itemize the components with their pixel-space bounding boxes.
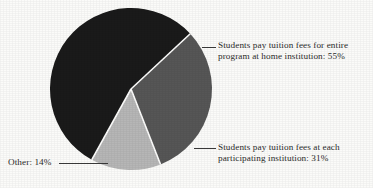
leader-line-other — [59, 163, 108, 164]
pie-label-each-institution: Students pay tuition fees at each partic… — [218, 142, 340, 165]
leader-line-each-institution — [194, 148, 216, 149]
pie-label-each-institution-line1: Students pay tuition fees at each — [218, 142, 340, 153]
pie-label-each-institution-line2: participating institution: 31% — [218, 153, 340, 164]
pie-label-other-line1: Other: 14% — [8, 157, 52, 168]
pie-label-home-institution-line2: program at home institution: 55% — [218, 51, 348, 62]
pie-label-home-institution-line1: Students pay tuition fees for entire — [218, 40, 348, 51]
pie-label-home-institution: Students pay tuition fees for entire pro… — [218, 40, 348, 63]
leader-line-home-institution — [202, 47, 216, 48]
pie-label-other: Other: 14% — [8, 157, 52, 168]
pie-chart-figure: Students pay tuition fees for entire pro… — [0, 0, 373, 188]
